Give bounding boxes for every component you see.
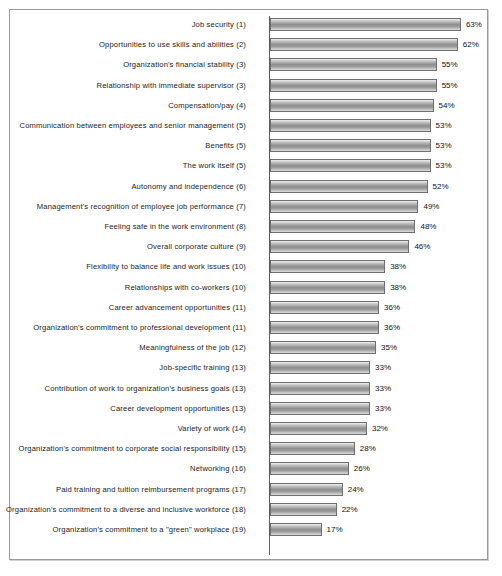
bar-row: Career advancement opportunities (11)36% (10, 297, 487, 319)
bar-row: Meaningfulness of the job (12)35% (10, 337, 487, 359)
category-label: Overall corporate culture (9) (147, 236, 246, 258)
bar-value-label: 36% (384, 317, 400, 339)
bar-row: Organization's financial stability (3)55… (10, 54, 487, 76)
category-label: Relationships with co-workers (10) (125, 277, 246, 299)
bar (270, 260, 385, 273)
bar-row: Career development opportunities (13)33% (10, 398, 487, 420)
bar (270, 341, 376, 354)
bar-row: Overall corporate culture (9)46% (10, 236, 487, 258)
bar (270, 240, 409, 253)
category-label: Autonomy and independence (6) (131, 176, 246, 198)
bar-row: Organization's commitment to corporate s… (10, 438, 487, 460)
bar-value-label: 52% (433, 176, 449, 198)
category-label: Job security (1) (192, 14, 246, 36)
bar-value-label: 33% (375, 378, 391, 400)
bar-row: The work itself (5)53% (10, 155, 487, 177)
category-label: Organization's commitment to a diverse a… (6, 499, 246, 521)
bar-value-label: 55% (442, 75, 458, 97)
category-label: Compensation/pay (4) (168, 95, 246, 117)
bar-row: Relationships with co-workers (10)38% (10, 277, 487, 299)
category-label: Relationship with immediate supervisor (… (97, 75, 246, 97)
plot-area: Job security (1)63%Opportunities to use … (10, 10, 487, 559)
chart-frame: Job security (1)63%Opportunities to use … (9, 9, 488, 560)
category-label: Contribution of work to organization's b… (45, 378, 246, 400)
bar-value-label: 33% (375, 357, 391, 379)
bar-value-label: 22% (342, 499, 358, 521)
bar (270, 220, 415, 233)
bar-value-label: 48% (420, 216, 436, 238)
bar-value-label: 46% (414, 236, 430, 258)
bar-row: Variety of work (14)32% (10, 418, 487, 440)
bar-row: Opportunities to use skills and abilitie… (10, 34, 487, 56)
category-label: Flexibility to balance life and work iss… (86, 256, 246, 278)
bar (270, 119, 431, 132)
category-label: Organization's commitment to corporate s… (19, 438, 246, 460)
bar-value-label: 28% (360, 438, 376, 460)
category-label: Organization's commitment to professiona… (33, 317, 246, 339)
bar-value-label: 36% (384, 297, 400, 319)
bar-row: Management's recognition of employee job… (10, 196, 487, 218)
bar-value-label: 38% (390, 256, 406, 278)
bar-value-label: 38% (390, 277, 406, 299)
bar-row: Job security (1)63% (10, 14, 487, 36)
bar (270, 462, 349, 475)
bar-value-label: 17% (327, 519, 343, 541)
category-label: Job-specific training (13) (159, 357, 246, 379)
bar (270, 503, 337, 516)
bar (270, 281, 385, 294)
category-label: Benefits (5) (205, 135, 246, 157)
bar-value-label: 32% (372, 418, 388, 440)
bar-value-label: 55% (442, 54, 458, 76)
bar-row: Autonomy and independence (6)52% (10, 176, 487, 198)
bar (270, 442, 355, 455)
bar-row: Feeling safe in the work environment (8)… (10, 216, 487, 238)
bar-row: Flexibility to balance life and work iss… (10, 256, 487, 278)
category-label: Opportunities to use skills and abilitie… (99, 34, 246, 56)
bar (270, 402, 370, 415)
bar-value-label: 53% (436, 135, 452, 157)
bar (270, 18, 461, 31)
bar (270, 301, 379, 314)
bar (270, 382, 370, 395)
bar-value-label: 53% (436, 155, 452, 177)
category-label: The work itself (5) (183, 155, 246, 177)
bar (270, 200, 418, 213)
bar-value-label: 49% (423, 196, 439, 218)
bar-row: Paid training and tuition reimbursement … (10, 479, 487, 501)
bar-row: Organization's commitment to a diverse a… (10, 499, 487, 521)
bar-row: Organization's commitment to professiona… (10, 317, 487, 339)
bar (270, 180, 428, 193)
category-label: Communication between employees and seni… (20, 115, 246, 137)
category-label: Networking (16) (190, 458, 246, 480)
bar-value-label: 62% (463, 34, 479, 56)
category-label: Organization's commitment to a "green" w… (53, 519, 246, 541)
bar-row: Relationship with immediate supervisor (… (10, 75, 487, 97)
bar-row: Compensation/pay (4)54% (10, 95, 487, 117)
bar-row: Networking (16)26% (10, 458, 487, 480)
bar (270, 159, 431, 172)
bar (270, 483, 343, 496)
category-label: Management's recognition of employee job… (37, 196, 246, 218)
bar (270, 321, 379, 334)
bar (270, 422, 367, 435)
category-label: Organization's financial stability (3) (123, 54, 246, 76)
bar-row: Communication between employees and seni… (10, 115, 487, 137)
bar (270, 139, 431, 152)
category-label: Career development opportunities (13) (110, 398, 246, 420)
bar-value-label: 35% (381, 337, 397, 359)
bar (270, 99, 434, 112)
bar-value-label: 26% (354, 458, 370, 480)
category-label: Career advancement opportunities (11) (109, 297, 246, 319)
bar-value-label: 54% (439, 95, 455, 117)
bar-value-label: 33% (375, 398, 391, 420)
bar (270, 361, 370, 374)
bar (270, 38, 458, 51)
bar-value-label: 63% (466, 14, 482, 36)
bar-row: Contribution of work to organization's b… (10, 378, 487, 400)
category-label: Paid training and tuition reimbursement … (56, 479, 246, 501)
bar (270, 523, 322, 536)
bar-row: Benefits (5)53% (10, 135, 487, 157)
bar-value-label: 53% (436, 115, 452, 137)
bar-value-label: 24% (348, 479, 364, 501)
category-label: Feeling safe in the work environment (8) (104, 216, 246, 238)
